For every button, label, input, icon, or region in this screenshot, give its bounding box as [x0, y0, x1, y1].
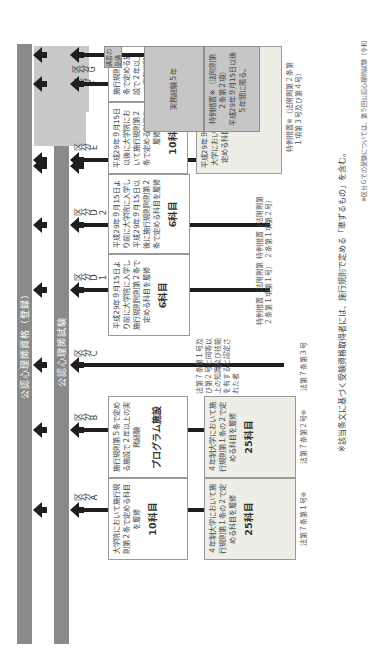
qualification-band: 公認心理師資格（登録）	[17, 44, 32, 644]
category-a-undergrad-box: ４年制大学において施行規則第１条の２で定める科目を履修 25科目	[204, 478, 296, 560]
arrow-up-icon	[33, 422, 47, 438]
category-d1-basis: 特例措置（法附則第２条第１項第１号）	[256, 260, 274, 326]
category-d1-subjects: 6科目	[158, 259, 168, 331]
arrow-shaft	[84, 363, 284, 367]
category-d1-label: 区分D1	[74, 273, 108, 282]
category-c-basis: 法第７条第３号	[300, 338, 309, 394]
category-b-undergrad-box: ４年制大学において施行規則第１条の２で定める科目を履修 25科目	[204, 396, 296, 478]
arrow-shaft	[188, 158, 196, 162]
arrow-shaft	[188, 508, 204, 512]
arrow-shaft	[84, 223, 108, 227]
category-g-experience-text: 実務経験５年	[169, 68, 179, 110]
side-note: ※区分Ｇでの受験については、第５回公認心理師試験（令和	[360, 2, 368, 202]
arrow-up-icon	[70, 217, 84, 233]
category-g-experience-box: 実務経験５年	[144, 46, 204, 132]
category-a-undergrad-text: ４年制大学において施行規則第１条の２で定める科目を履修	[208, 484, 237, 554]
arrow-up-icon	[70, 502, 84, 518]
category-b-label: 区分B	[74, 413, 99, 422]
arrow-up-icon	[70, 282, 84, 298]
category-d2-subjects: 6科目	[168, 179, 178, 249]
exam-band: 公認心理師試験	[54, 60, 69, 644]
category-a-graduate-subjects: 10科目	[148, 483, 158, 555]
arrow-up-icon	[33, 357, 47, 373]
arrow-up-icon	[70, 47, 84, 63]
arrow-shaft	[84, 158, 108, 162]
arrow-up-icon	[70, 76, 84, 92]
category-g-label: 区分G	[72, 65, 97, 74]
category-b-program-facility: プログラム施設	[152, 401, 162, 473]
category-c-label: 区分C	[74, 349, 99, 358]
category-g-basis: 特例措置※（法附則第２条第２項）	[208, 54, 227, 123]
category-d1-box: 平成29年９月15日より前に大学院に入学し施行規則附則第２条で定める科目を履修 …	[108, 254, 190, 336]
arrow-up-icon	[33, 217, 47, 233]
arrow-shaft	[84, 288, 108, 292]
arrow-shaft	[84, 428, 108, 432]
arrow-up-icon	[70, 357, 84, 373]
category-d2-label: 区分D2	[74, 208, 108, 217]
shared-undergrad-basis: 特例措置※（法附則第２条第１項第３号及び第４号）	[286, 62, 304, 152]
category-d2-box: 平成29年９月15日より前に大学院に入学し平成29年９月15日以後に施行規則附則…	[108, 174, 190, 254]
arrow-up-icon	[70, 152, 84, 168]
category-g-course-box: 講習の受講	[104, 46, 122, 68]
qualification-band-label: 公認心理師資格（登録）	[18, 289, 31, 399]
arrow-up-icon	[33, 502, 47, 518]
category-b-undergrad-text: ４年制大学において施行規則第１条の２で定める科目を履修	[208, 402, 237, 472]
category-d1-text: 平成29年９月15日より前に大学院に入学し施行規則附則第２条で定める科目を履修	[112, 260, 151, 330]
category-b-graduate-text: 施行規則第５条で定める施設で２年以上の実務経験	[112, 402, 141, 472]
category-b-undergrad-subjects: 25科目	[244, 401, 254, 473]
category-a-undergrad-subjects: 25科目	[244, 483, 254, 555]
category-b-basis: 法第７条第２号※	[300, 396, 309, 478]
exam-band-label: 公認心理師試験	[55, 317, 68, 387]
diagram-canvas: 公認心理師資格（登録） 公認心理師試験 区分A 大学院において施行規則第２条で定…	[0, 0, 390, 672]
category-a-label: 区分A	[74, 493, 99, 502]
category-g-basis-box: 特例措置※（法附則第２条第２項） 平成29年９月15日以後５年間に限る。	[204, 46, 260, 132]
category-a-graduate-box: 大学院において施行規則第２条で定める科目を履修 10科目	[108, 478, 188, 560]
arrow-shaft	[84, 82, 108, 86]
category-g-course-text: 講習の受講	[104, 47, 122, 67]
category-d2-basis: 特例措置（法附則第２条第１項第２号）	[256, 194, 274, 260]
arrow-up-icon	[33, 47, 47, 63]
arrow-shaft	[84, 508, 108, 512]
category-a-graduate-text: 大学院において施行規則第２条で定める科目を履修	[112, 484, 141, 554]
arrow-up-icon	[70, 422, 84, 438]
footnote: ※該当条文に基づく受験資格取得者には、施行規則で定める「準ずるもの」を含む。	[336, 149, 347, 452]
arrow-up-icon	[33, 282, 47, 298]
category-c-criteria: 法第７条第１号及び第２号と同等以上の知識及び技能を有すると認定された者	[196, 338, 241, 394]
arrow-shaft	[188, 428, 204, 432]
category-b-graduate-box: 施行規則第５条で定める施設で２年以上の実務経験 プログラム施設	[108, 396, 188, 478]
category-d2-text: 平成29年９月15日より前に大学院に入学し平成29年９月15日以後に施行規則附則…	[112, 179, 161, 249]
category-e-label: 区分E	[74, 143, 99, 152]
category-a-basis: 法第７条第１号※	[300, 478, 309, 560]
arrow-up-icon	[33, 76, 47, 92]
category-g-limit: 平成29年９月15日以後５年間に限る。	[228, 52, 247, 126]
arrow-up-icon	[33, 152, 47, 168]
